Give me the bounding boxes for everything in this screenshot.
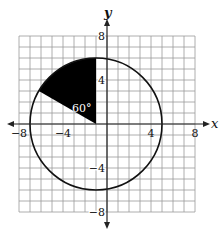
y-tick-label: 4 (98, 74, 105, 87)
y-axis-label: y (103, 5, 113, 20)
x-tick-label: −4 (55, 127, 71, 140)
x-tick-label: −8 (11, 127, 27, 140)
y-tick-label: 8 (98, 30, 105, 43)
y-axis-arrow-down-icon (104, 222, 110, 229)
coordinate-plane: x y −8−44884−4−8 60° (0, 0, 223, 231)
y-tick-label: −4 (89, 162, 105, 175)
y-axis-arrow-up-icon (104, 19, 110, 26)
y-tick-label: −8 (89, 206, 105, 219)
x-tick-label: 4 (148, 127, 155, 140)
angle-label: 60° (72, 102, 92, 115)
x-axis-arrow-right-icon (203, 121, 210, 127)
x-axis-label: x (211, 116, 219, 131)
x-tick-label: 8 (192, 127, 199, 140)
axes (7, 19, 210, 229)
